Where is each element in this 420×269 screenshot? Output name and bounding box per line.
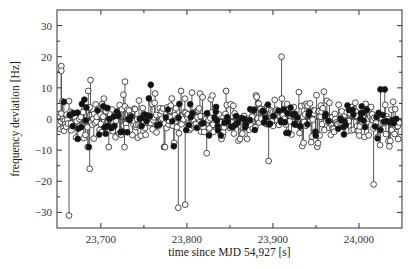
open-marker (308, 139, 314, 145)
y-tick-label: 20 (41, 51, 53, 63)
filled-marker (171, 143, 177, 149)
open-marker (152, 91, 158, 97)
open-marker (231, 131, 237, 137)
filled-marker (165, 107, 171, 113)
open-marker (296, 89, 302, 95)
open-marker (244, 136, 250, 142)
filled-marker (95, 108, 101, 114)
open-marker (336, 102, 342, 108)
filled-marker (204, 110, 210, 116)
filled-marker (313, 133, 319, 139)
open-marker (189, 90, 195, 96)
filled-marker (247, 117, 253, 123)
open-marker (266, 158, 272, 164)
y-tick-label: 10 (41, 82, 53, 94)
open-marker (100, 114, 106, 120)
filled-marker (139, 123, 145, 129)
filled-marker (213, 104, 219, 110)
filled-marker (242, 116, 248, 122)
filled-marker (190, 110, 196, 116)
open-marker (366, 132, 372, 138)
filled-marker (163, 115, 169, 121)
filled-marker (112, 123, 118, 129)
y-tick-label: −30 (35, 206, 53, 218)
open-marker (371, 182, 377, 188)
filled-marker (285, 130, 291, 136)
x-tick-label: 23,700 (86, 233, 117, 245)
open-marker (82, 132, 88, 138)
open-marker (182, 96, 188, 102)
markers (56, 54, 402, 219)
filled-marker (200, 120, 206, 126)
filled-marker (75, 110, 81, 116)
open-marker (239, 131, 245, 137)
filled-marker (305, 121, 311, 127)
filled-marker (81, 97, 87, 103)
open-marker (87, 166, 93, 172)
open-marker (196, 106, 202, 112)
open-marker (204, 150, 210, 156)
x-tick-label: 23,900 (258, 233, 289, 245)
filled-marker (297, 124, 303, 130)
filled-marker (146, 96, 152, 102)
open-marker (143, 132, 149, 138)
filled-marker (267, 121, 273, 127)
y-tick-label: −10 (35, 144, 53, 156)
open-marker (66, 213, 72, 219)
open-marker (200, 94, 206, 100)
filled-marker (351, 112, 357, 118)
open-marker (321, 89, 327, 95)
filled-marker (326, 118, 332, 124)
filled-marker (382, 87, 388, 93)
filled-marker (218, 133, 224, 139)
filled-marker (83, 117, 89, 123)
open-marker (152, 100, 158, 106)
filled-marker (378, 127, 384, 133)
filled-marker (214, 118, 220, 124)
filled-marker (343, 122, 349, 128)
filled-marker (364, 107, 370, 113)
open-marker (387, 143, 393, 149)
open-marker (136, 98, 142, 104)
stem-plot: 23,70023,80023,90024,000−30−20−100102030… (0, 0, 420, 269)
filled-marker (148, 82, 154, 88)
filled-marker (372, 124, 378, 130)
filled-marker (265, 102, 271, 108)
filled-marker (116, 113, 122, 119)
open-marker (175, 205, 181, 211)
filled-marker (341, 132, 347, 138)
filled-marker (361, 118, 367, 124)
open-marker (122, 79, 128, 85)
x-axis-label: time since MJD 54,927 [s] (168, 246, 290, 259)
open-marker (101, 96, 107, 102)
open-marker (327, 100, 333, 106)
filled-marker (96, 132, 102, 138)
filled-marker (186, 122, 192, 128)
open-marker (178, 88, 184, 94)
filled-marker (359, 103, 365, 109)
filled-marker (375, 136, 381, 142)
open-marker (140, 105, 146, 111)
filled-marker (147, 113, 153, 119)
filled-marker (84, 105, 90, 111)
open-marker (122, 144, 128, 150)
filled-marker (194, 125, 200, 131)
y-tick-label: −20 (35, 175, 53, 187)
x-tick-label: 24,000 (344, 233, 375, 245)
open-marker (162, 144, 168, 150)
filled-marker (105, 105, 111, 111)
filled-marker (124, 129, 130, 135)
filled-marker (75, 136, 81, 142)
filled-marker (187, 101, 193, 107)
filled-marker (206, 132, 212, 138)
open-marker (377, 142, 383, 148)
filled-marker (61, 99, 67, 105)
filled-marker (177, 101, 183, 107)
open-marker (85, 88, 91, 94)
y-axis-label: frequency deviation [Hz] (9, 61, 22, 177)
y-tick-label: 30 (41, 20, 53, 32)
filled-marker (103, 131, 109, 137)
open-marker (154, 129, 160, 135)
filled-marker (156, 122, 162, 128)
open-marker (392, 106, 398, 112)
